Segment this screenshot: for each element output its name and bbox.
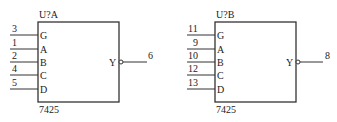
- inversion-bubble-icon: [296, 60, 300, 64]
- pin-name: B: [217, 57, 224, 68]
- chip-body[interactable]: [215, 22, 296, 102]
- pin-name: G: [217, 30, 224, 41]
- pin-name: D: [40, 84, 47, 95]
- pin-name: C: [217, 70, 224, 81]
- pin-number: 10: [188, 50, 198, 61]
- pin-number: 9: [193, 37, 198, 48]
- pin-number: 4: [12, 63, 17, 74]
- pin-name: C: [40, 70, 47, 81]
- pin-number: 6: [148, 50, 153, 61]
- chip-part-label: 7425: [39, 104, 59, 115]
- chip-ref-label: U?A: [39, 9, 59, 20]
- pin-number: 11: [188, 23, 198, 34]
- pin-name: Y: [286, 57, 293, 68]
- pin-name: Y: [109, 57, 116, 68]
- pin-name: G: [40, 30, 47, 41]
- pin-name: A: [217, 44, 225, 55]
- chip-u-b[interactable]: U?B 11 G 9 A 10 B 12 C 13 D Y: [187, 9, 330, 115]
- pin-name: D: [217, 84, 224, 95]
- pin-number: 5: [12, 77, 17, 88]
- chip-u-a[interactable]: U?A 3 G 1 A 2 B 4 C 5 D Y: [10, 9, 153, 115]
- pin-name: B: [40, 57, 47, 68]
- pin-number: 2: [12, 50, 17, 61]
- pin-number: 12: [188, 63, 198, 74]
- chip-body[interactable]: [38, 22, 119, 102]
- pin-name: A: [40, 44, 48, 55]
- inversion-bubble-icon: [119, 60, 123, 64]
- pin-number: 1: [12, 37, 17, 48]
- pin-number: 8: [325, 50, 330, 61]
- schematic-canvas: U?A 3 G 1 A 2 B 4 C 5 D Y: [0, 0, 337, 122]
- pin-number: 13: [188, 77, 198, 88]
- pin-number: 3: [12, 23, 17, 34]
- chip-ref-label: U?B: [216, 9, 235, 20]
- chip-part-label: 7425: [216, 104, 236, 115]
